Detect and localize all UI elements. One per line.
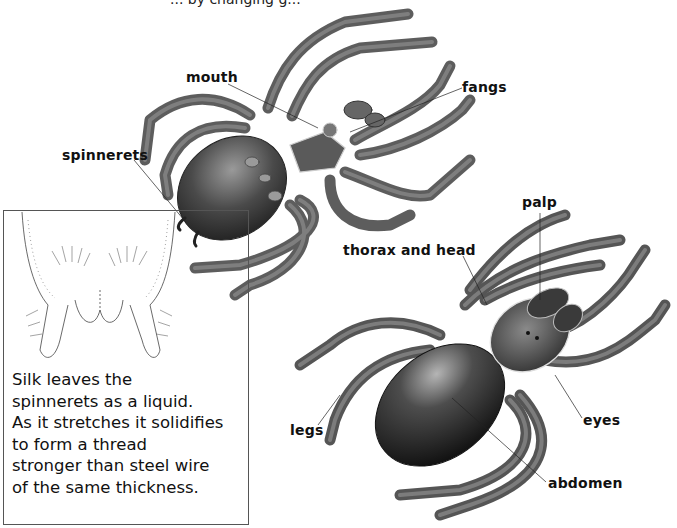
caption-line: spinnerets as a liquid. xyxy=(12,391,248,413)
label-fangs: fangs xyxy=(462,79,507,95)
caption-line: of the same thickness. xyxy=(12,477,248,499)
label-mouth: mouth xyxy=(186,69,238,85)
caption-line: As it stretches it solidifies xyxy=(12,412,248,434)
label-eyes: eyes xyxy=(583,412,620,428)
label-abdomen: abdomen xyxy=(548,475,623,491)
label-legs: legs xyxy=(290,422,323,438)
caption-line: to form a thread xyxy=(12,434,248,456)
caption-line: stronger than steel wire xyxy=(12,455,248,477)
caption-line: Silk leaves the xyxy=(12,369,248,391)
label-thorax-and-head: thorax and head xyxy=(343,242,476,258)
spider-anatomy-diagram: ... by changing g... xyxy=(0,0,677,528)
silk-caption: Silk leaves the spinnerets as a liquid. … xyxy=(12,369,248,498)
lower-spider xyxy=(300,215,665,515)
label-palp: palp xyxy=(522,194,557,210)
label-spinnerets: spinnerets xyxy=(62,147,148,163)
